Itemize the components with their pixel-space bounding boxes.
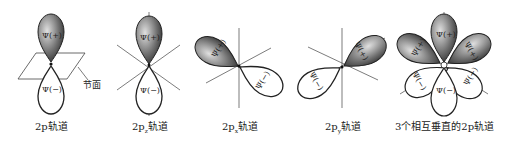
nucleus [49, 62, 52, 65]
panel-2p-nodal-plane: Ψ(+) Ψ(−) 节面 [18, 14, 101, 114]
caption-suffix: 轨道 [341, 121, 361, 132]
panel-2pz: Ψ(+) Ψ(−) [117, 12, 180, 116]
nucleus [441, 62, 447, 68]
nucleus [341, 66, 344, 69]
caption-prefix: 2p [222, 121, 235, 132]
panel-2px: Ψ(+) Ψ(−) [190, 28, 288, 108]
lobe-label-negative: Ψ(−) [140, 86, 160, 95]
caption-suffix: 轨道 [148, 121, 168, 132]
caption-2py: 2py轨道 [325, 118, 361, 134]
caption-suffix: 轨道 [238, 121, 258, 132]
leader-line [78, 67, 88, 80]
panel-2py: Ψ(+) Ψ(−) [292, 28, 391, 108]
lobe-label-positive: Ψ(+) [42, 31, 62, 40]
lobe-label-positive-z: Ψ(+) [436, 30, 456, 39]
nucleus [238, 65, 241, 68]
lobe-label-positive: Ψ(+) [140, 33, 160, 42]
caption-prefix: 2p [325, 121, 338, 132]
caption-2p: 2p轨道 [35, 118, 68, 133]
lobe-label-negative-z: Ψ(−) [436, 86, 456, 95]
lobe-label-negative: Ψ(−) [42, 85, 62, 94]
caption-2px: 2px轨道 [222, 118, 258, 134]
caption-three-2p: 3个相互垂直的2p轨道 [395, 118, 494, 133]
caption-prefix: 2p [132, 121, 145, 132]
nodal-plane-label: 节面 [83, 80, 101, 90]
nucleus [148, 64, 151, 67]
panel-three-2p: Ψ(+) Ψ(−) Ψ(+) Ψ(+) Ψ(−) Ψ(−) [392, 12, 496, 116]
caption-2pz: 2pz轨道 [132, 118, 168, 134]
